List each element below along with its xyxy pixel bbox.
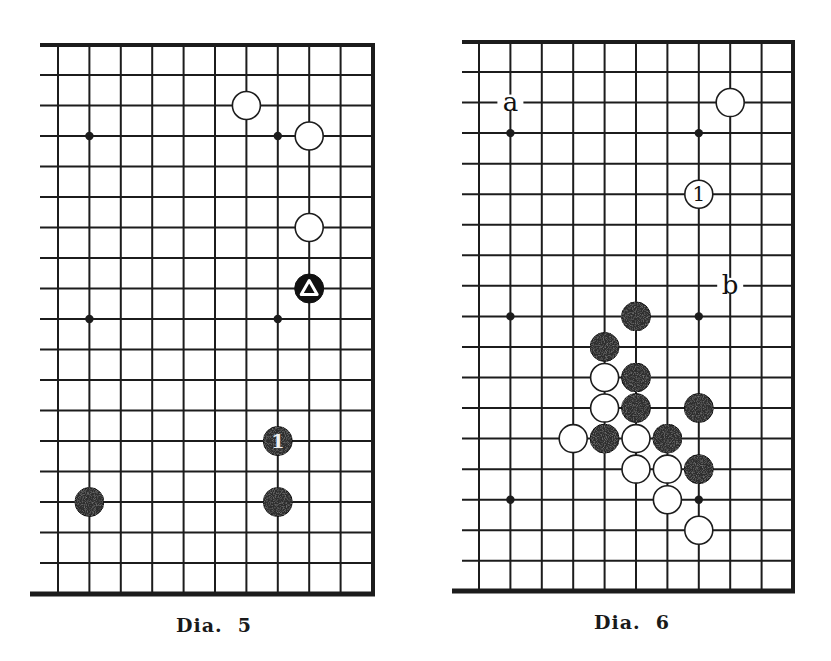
white-stone — [591, 364, 619, 392]
diagram-6-caption: Dia. 6 — [594, 611, 670, 633]
move-number: 1 — [271, 430, 284, 452]
black-stone — [622, 394, 651, 423]
point-label-a: a — [497, 87, 523, 117]
black-stone — [590, 424, 619, 453]
diagram-5-board: 1 — [30, 43, 375, 596]
white-stone — [622, 455, 650, 483]
black-stone — [75, 488, 104, 517]
black-stone — [622, 302, 651, 331]
star-point — [506, 129, 514, 137]
white-stone — [653, 486, 681, 514]
svg-text:a: a — [503, 87, 519, 117]
white-stone — [716, 89, 744, 117]
white-stone — [559, 425, 587, 453]
white-stone — [295, 214, 323, 242]
white-stone — [622, 425, 650, 453]
black-stone — [684, 455, 713, 484]
star-point — [85, 132, 93, 140]
svg-text:b: b — [722, 270, 739, 300]
point-label-b: b — [717, 270, 743, 300]
white-stone — [685, 516, 713, 544]
black-stone — [263, 488, 292, 517]
star-point — [506, 496, 514, 504]
black-stone — [590, 332, 619, 361]
star-point — [85, 315, 93, 323]
black-stone — [295, 274, 324, 303]
white-stone — [232, 92, 260, 120]
diagram-6-board: ab1 — [452, 40, 795, 593]
white-stone — [653, 455, 681, 483]
black-stone — [653, 424, 682, 453]
star-point — [274, 315, 282, 323]
star-point — [695, 312, 703, 320]
star-point — [274, 132, 282, 140]
black-stone: 1 — [263, 427, 292, 456]
star-point — [695, 496, 703, 504]
white-stone — [295, 122, 323, 150]
star-point — [695, 129, 703, 137]
move-number: 1 — [692, 182, 705, 206]
black-stone — [684, 394, 713, 423]
black-stone — [622, 363, 651, 392]
diagram-5-caption: Dia. 5 — [176, 614, 252, 636]
go-diagrams: 1 ab1 — [0, 0, 831, 661]
star-point — [506, 312, 514, 320]
white-stone — [591, 394, 619, 422]
white-stone: 1 — [685, 180, 713, 208]
